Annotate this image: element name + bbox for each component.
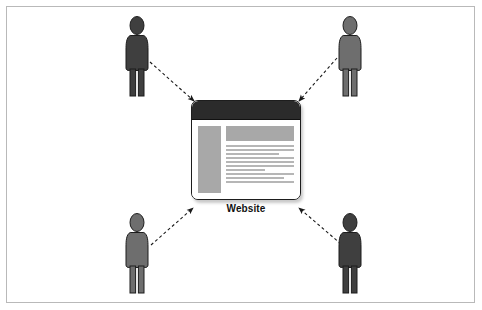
- content-text-line: [226, 153, 279, 155]
- website-node: [191, 100, 301, 200]
- content-text-line: [226, 157, 294, 159]
- visitor-top-left-icon: [120, 16, 154, 98]
- visitor-bottom-right-icon: [333, 213, 367, 295]
- content-text-line: [226, 149, 294, 151]
- browser-titlebar: [192, 101, 300, 120]
- content-text-line: [226, 177, 284, 179]
- content-text-line: [226, 173, 294, 175]
- content-header-block: [226, 126, 294, 141]
- content-text-lines: [226, 145, 294, 185]
- arrow-top-left-to-website: [150, 62, 194, 101]
- content-text-line: [226, 181, 294, 183]
- diagram-figure: Website: [0, 0, 482, 310]
- browser-body: [192, 121, 300, 199]
- content-text-line: [226, 145, 294, 147]
- content-text-line: [226, 169, 265, 171]
- visitor-bottom-left-icon: [120, 213, 154, 295]
- arrow-bottom-left-to-website: [151, 208, 193, 245]
- browser-content-area: [226, 126, 294, 193]
- content-text-line: [226, 165, 294, 167]
- visitor-top-right-icon: [333, 16, 367, 98]
- arrow-top-right-to-website: [299, 58, 337, 101]
- website-label: Website: [191, 203, 301, 214]
- content-text-line: [226, 161, 294, 163]
- browser-sidebar-block: [198, 126, 221, 193]
